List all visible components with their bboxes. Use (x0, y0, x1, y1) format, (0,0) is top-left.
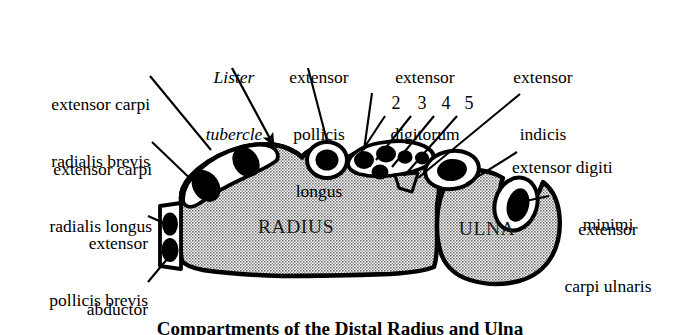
label-ecrb-line1: extensor carpi (0, 95, 150, 114)
label-lister-line1: Lister (184, 68, 284, 87)
label-apl-line1: abductor (0, 300, 148, 319)
label-edm-line1: extensor digiti (512, 158, 680, 177)
bone-label-radius: RADIUS (226, 216, 366, 238)
compartment-epb-apl (160, 203, 181, 269)
label-extensor-pollicis-longus: extensor pollicis longus (274, 30, 364, 239)
figure-caption-clip: Compartments of the Distal Radius and Ul… (0, 318, 680, 335)
label-ed-line2: digitorum (372, 125, 478, 144)
label-lister-line2: tubercle (184, 125, 284, 144)
label-ecu-line2: carpi ulnaris (536, 277, 680, 296)
label-ecu-line1: extensor (536, 220, 680, 239)
label-ecrl-line1: extensor carpi (0, 160, 152, 179)
label-epl-line1: extensor (274, 68, 364, 87)
digit-number-2: 2 (388, 94, 404, 112)
digit-number-3: 3 (414, 94, 430, 112)
digit-number-5: 5 (461, 94, 477, 112)
bone-label-ulna: ULNA (432, 218, 542, 240)
label-extensor-carpi-ulnaris: extensor carpi ulnaris (536, 182, 680, 334)
label-ei-line1: extensor (494, 68, 592, 87)
label-ed-line1: extensor (372, 68, 478, 87)
label-lister-tubercle: Lister tubercle (184, 30, 284, 182)
label-epl-line2: pollicis (274, 125, 364, 144)
tendon-apl (162, 238, 179, 262)
label-epb-line1: extensor (0, 234, 148, 253)
anatomy-figure: extensor carpi radialis brevis extensor … (0, 0, 680, 335)
label-epl-line3: longus (274, 182, 364, 201)
figure-caption: Compartments of the Distal Radius and Ul… (0, 318, 680, 335)
digit-number-4: 4 (438, 94, 454, 112)
